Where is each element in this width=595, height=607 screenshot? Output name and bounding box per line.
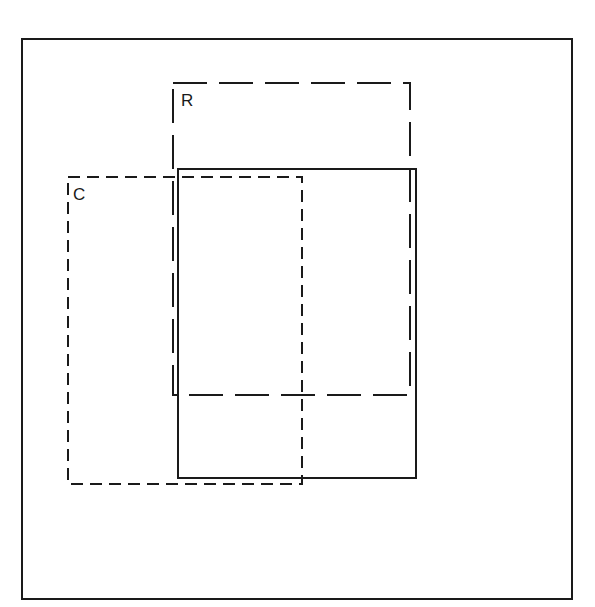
box-c-short-dashed <box>68 177 302 484</box>
label-r: R <box>181 91 193 110</box>
outer-frame <box>22 39 572 599</box>
solid-box <box>178 169 416 478</box>
label-c: C <box>73 185 85 204</box>
venn-rectangles-diagram: R C <box>0 0 595 607</box>
box-r-long-dashed <box>173 83 410 395</box>
